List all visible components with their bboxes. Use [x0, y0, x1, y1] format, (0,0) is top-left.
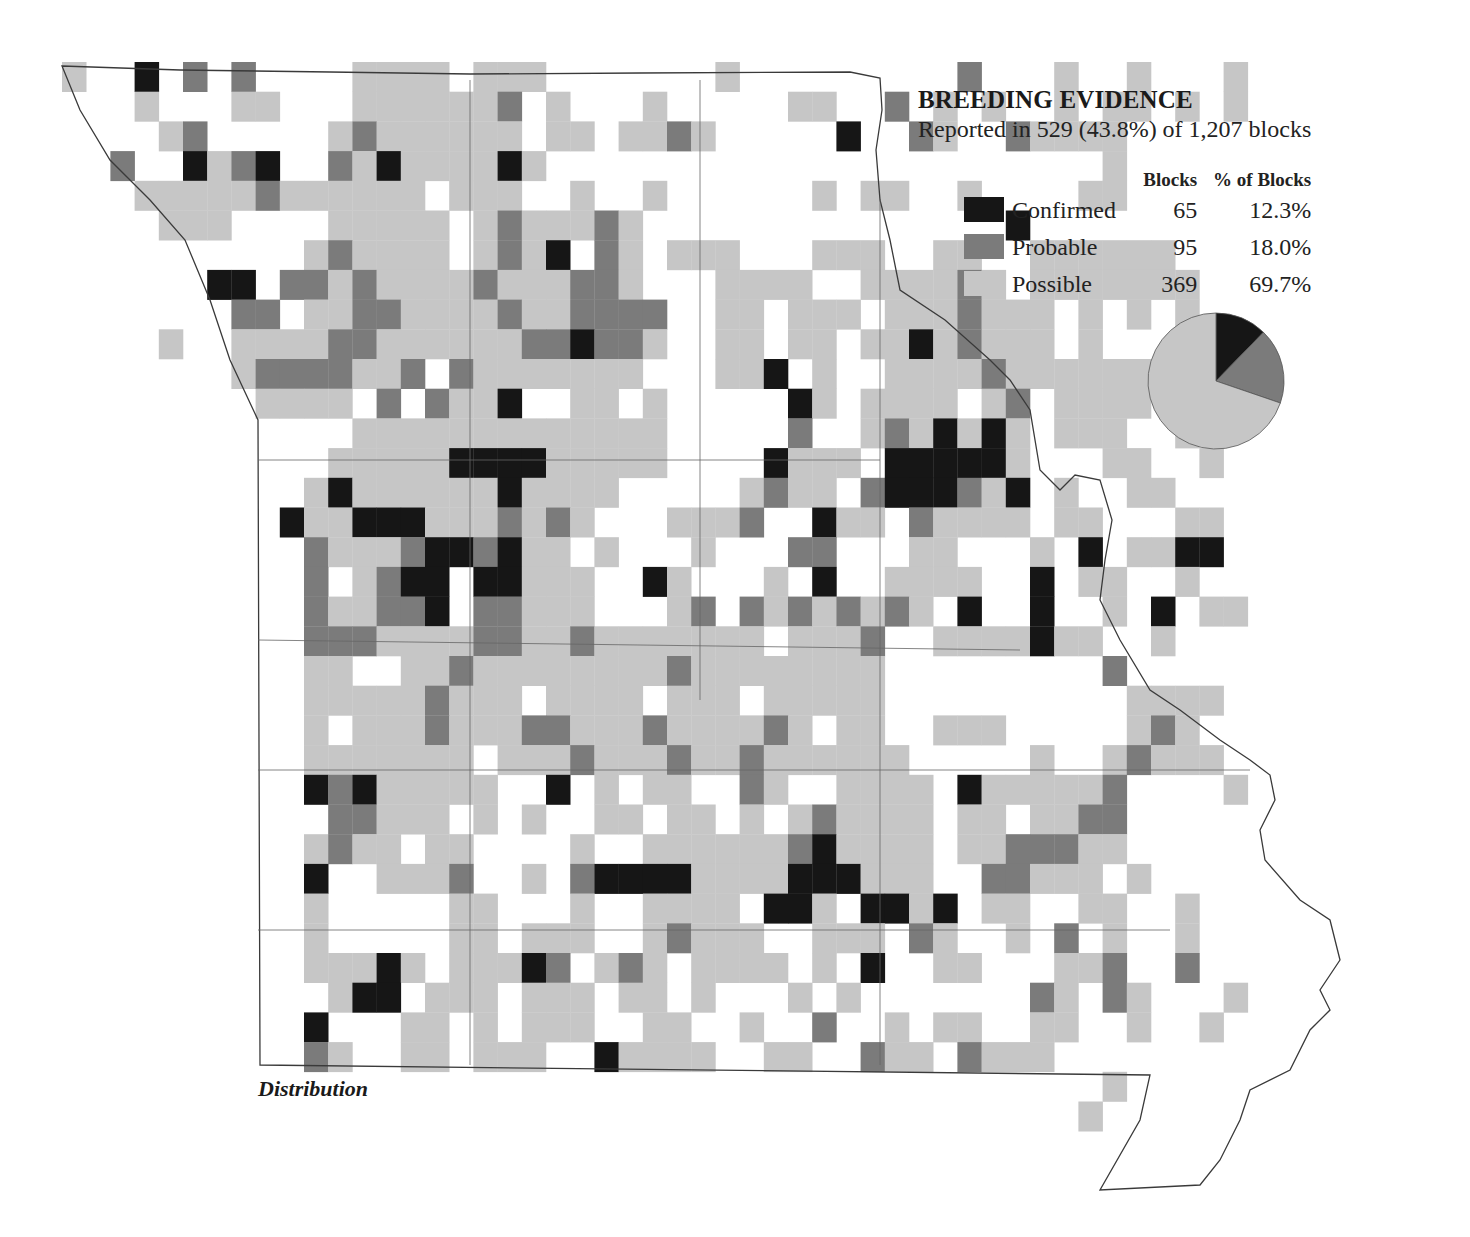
block-cell-probable — [425, 389, 450, 419]
block-cell-possible — [885, 300, 910, 330]
block-cell-possible — [522, 923, 547, 953]
block-cell-possible — [135, 92, 160, 122]
block-cell-possible — [546, 418, 571, 448]
block-cell-possible — [740, 834, 765, 864]
block-cell-probable — [1030, 983, 1055, 1013]
block-cell-confirmed — [304, 864, 329, 894]
block-cell-possible — [522, 805, 547, 835]
block-cell-probable — [643, 715, 668, 745]
block-cell-possible — [1054, 953, 1079, 983]
block-cell-confirmed — [352, 508, 377, 538]
block-cell-possible — [1127, 478, 1152, 508]
block-cell-possible — [1199, 686, 1224, 716]
block-cell-probable — [1103, 983, 1128, 1013]
block-cell-confirmed — [498, 567, 522, 597]
block-cell-possible — [861, 240, 886, 270]
block-cell-possible — [401, 240, 426, 270]
legend-row-possible: Possible 369 69.7% — [964, 266, 1311, 303]
block-cell-possible — [401, 121, 426, 151]
block-cell-probable — [1151, 715, 1176, 745]
block-cell-possible — [933, 953, 958, 983]
block-cell-possible — [328, 537, 353, 567]
block-cell-possible — [1199, 448, 1224, 478]
block-cell-possible — [304, 656, 329, 686]
block-cell-possible — [498, 715, 522, 745]
block-cell-probable — [401, 359, 426, 389]
block-cell-possible — [1103, 894, 1128, 924]
block-cell-possible — [982, 478, 1007, 508]
block-cell-possible — [328, 745, 353, 775]
block-cell-possible — [522, 359, 547, 389]
block-cell-possible — [546, 448, 571, 478]
block-cell-probable — [425, 686, 450, 716]
block-cell-confirmed — [207, 270, 232, 300]
block-cell-possible — [328, 270, 353, 300]
probable-swatch — [964, 234, 1004, 259]
block-cell-possible — [1103, 389, 1128, 419]
block-cell-confirmed — [304, 775, 329, 805]
block-cell-possible — [401, 626, 426, 656]
block-cell-possible — [231, 181, 256, 211]
block-cell-possible — [473, 923, 498, 953]
block-cell-possible — [619, 448, 644, 478]
block-cell-possible — [740, 805, 765, 835]
block-cell-possible — [498, 656, 522, 686]
block-cell-confirmed — [256, 151, 281, 181]
block-cell-possible — [1175, 508, 1200, 538]
block-cell-possible — [352, 62, 377, 92]
block-cell-confirmed — [401, 508, 426, 538]
block-cell-possible — [473, 181, 498, 211]
block-cell-confirmed — [546, 240, 571, 270]
block-cell-possible — [619, 1042, 644, 1072]
block-cell-possible — [667, 567, 692, 597]
block-cell-possible — [570, 715, 595, 745]
block-cell-possible — [691, 745, 716, 775]
block-cell-possible — [836, 834, 861, 864]
block-cell-possible — [715, 508, 740, 538]
block-cell-confirmed — [377, 983, 402, 1013]
block-cell-possible — [957, 805, 982, 835]
block-cell-possible — [1054, 389, 1079, 419]
block-cell-possible — [836, 656, 861, 686]
block-cell-possible — [570, 894, 595, 924]
block-cell-possible — [933, 537, 958, 567]
block-cell-possible — [812, 656, 837, 686]
block-cell-confirmed — [667, 864, 692, 894]
block-cell-possible — [570, 389, 595, 419]
block-cell-possible — [1078, 864, 1103, 894]
block-cell-possible — [643, 923, 668, 953]
block-cell-possible — [352, 715, 377, 745]
block-cell-possible — [377, 240, 402, 270]
block-cell-possible — [982, 329, 1007, 359]
block-cell-probable — [1103, 953, 1128, 983]
block-cell-possible — [812, 597, 837, 627]
block-cell-possible — [1151, 537, 1176, 567]
block-cell-possible — [957, 1012, 982, 1042]
block-cell-possible — [498, 121, 522, 151]
block-cell-possible — [1030, 745, 1055, 775]
block-cell-possible — [715, 715, 740, 745]
block-cell-possible — [425, 240, 450, 270]
block-cell-possible — [957, 567, 982, 597]
block-cell-probable — [546, 329, 571, 359]
block-cell-probable — [328, 775, 353, 805]
block-cell-possible — [812, 389, 837, 419]
block-cell-possible — [401, 745, 426, 775]
block-cell-possible — [304, 715, 329, 745]
block-cell-probable — [957, 300, 982, 330]
block-cell-possible — [425, 775, 450, 805]
block-cell-possible — [352, 448, 377, 478]
block-cell-possible — [498, 62, 522, 92]
block-cell-possible — [352, 92, 377, 122]
legend-row-confirmed: Confirmed 65 12.3% — [964, 192, 1311, 229]
block-cell-probable — [788, 834, 813, 864]
block-cell-possible — [861, 508, 886, 538]
block-cell-possible — [885, 1012, 910, 1042]
block-cell-possible — [1224, 775, 1249, 805]
block-cell-possible — [352, 151, 377, 181]
block-cell-confirmed — [812, 508, 837, 538]
block-cell-possible — [788, 448, 813, 478]
block-cell-confirmed — [861, 953, 886, 983]
block-cell-possible — [788, 92, 813, 122]
block-cell-confirmed — [788, 894, 813, 924]
